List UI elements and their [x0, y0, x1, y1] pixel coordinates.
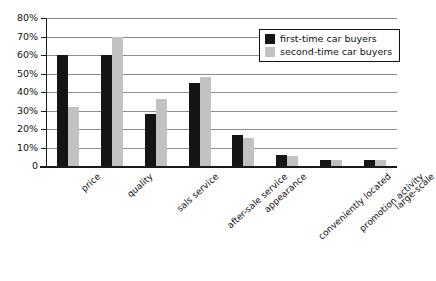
bar	[276, 155, 287, 166]
bar-group	[101, 37, 123, 167]
bar	[320, 160, 331, 166]
y-axis-tick-label: 80%	[17, 13, 38, 23]
legend-swatch-icon	[265, 47, 275, 57]
bar	[68, 107, 79, 166]
legend-item: first-time car buyers	[265, 34, 392, 44]
x-axis-tick-label: quality	[126, 172, 155, 199]
y-axis-tick-label: 10%	[17, 143, 38, 153]
bar	[101, 55, 112, 166]
legend-label: first-time car buyers	[280, 34, 377, 44]
x-axis-tick-label: price	[80, 172, 103, 194]
bar	[200, 77, 211, 166]
bar-group	[57, 55, 79, 166]
bar-group	[145, 99, 167, 166]
bar	[156, 99, 167, 166]
bar	[189, 83, 200, 166]
y-axis-tick-label: 50%	[17, 69, 38, 79]
y-axis-tick-label: 40%	[17, 87, 38, 97]
y-axis-tick-label: 30%	[17, 106, 38, 116]
bar	[287, 156, 298, 166]
y-axis-tick-label: 60%	[17, 50, 38, 60]
bar-group	[276, 155, 298, 166]
legend-item: second-time car buyers	[265, 47, 392, 57]
bar	[375, 160, 386, 166]
bar	[112, 37, 123, 167]
legend-swatch-icon	[265, 34, 275, 44]
legend-label: second-time car buyers	[280, 47, 392, 57]
y-axis-tick-label: 0	[32, 161, 38, 171]
bar	[232, 135, 243, 166]
x-axis-tick-label: promotion activity	[358, 172, 425, 234]
bar	[364, 160, 375, 166]
y-axis-tick-label: 70%	[17, 32, 38, 42]
x-axis-line	[40, 166, 397, 168]
bar-group	[320, 160, 342, 166]
bar	[145, 114, 156, 166]
bar	[331, 160, 342, 166]
bar-group	[189, 77, 211, 166]
y-axis-tick-label: 20%	[17, 124, 38, 134]
bar	[243, 138, 254, 166]
bar-group	[232, 135, 254, 166]
bar-group	[364, 160, 386, 166]
x-axis-tick-label: sals service	[175, 172, 220, 214]
bar	[57, 55, 68, 166]
legend: first-time car buyerssecond-time car buy…	[259, 29, 400, 62]
